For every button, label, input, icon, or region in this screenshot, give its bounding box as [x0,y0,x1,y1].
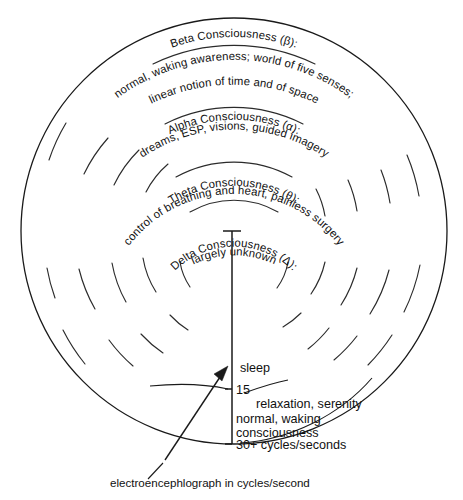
band-label-alpha: Alpha Consciousness (α): dreams, ESP, vi… [137,110,332,160]
pointer-arrowhead [214,366,228,381]
label-30-cycles: 30+ cycles/seconds [236,438,346,452]
consciousness-diagram: Beta Consciousness (β): normal, waking a… [0,0,463,500]
label-consciousness: consciousness [236,426,319,440]
alpha-line2: dreams, ESP, visions, guided imagery [137,120,332,160]
beta-title: Beta Consciousness (β): [169,27,300,50]
label-relaxation: relaxation, serenity [256,397,362,411]
beta-line3: linear notion of time and of space [147,75,321,106]
band-label-beta: Beta Consciousness (β): normal, waking a… [112,27,357,106]
leader-15 [244,380,288,393]
label-normal-waking: normal, waking [236,412,321,426]
band-divider-delta [190,200,278,212]
band-divider-theta [176,162,292,177]
label-15: 15 [236,383,250,397]
figure-caption: electroencephlograph in cycles/second [110,476,310,489]
beta-line2: normal, waking awareness; world of five … [112,50,357,100]
leader-left [150,384,228,389]
label-sleep: sleep [240,361,270,375]
band-label-delta: Delta Consciousness (Δ): largely unknown [168,237,300,273]
figure-canvas: Beta Consciousness (β): normal, waking a… [0,0,463,500]
arc-ring-inner [180,262,288,288]
